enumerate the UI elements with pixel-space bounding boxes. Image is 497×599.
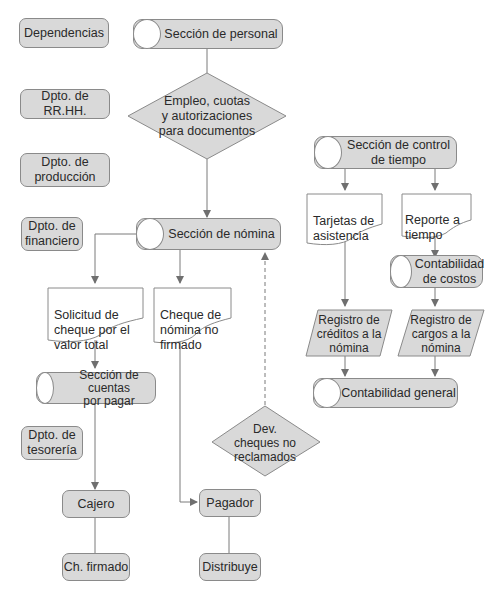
pagador-label: Pagador <box>206 496 253 511</box>
doc-reporte: Reporte a tiempo <box>405 198 460 243</box>
node-contabilidad-costos: Contabilidad de costos <box>390 255 483 288</box>
node-contabilidad-general: Contabilidad general <box>313 378 458 408</box>
dept-tesoreria: Dpto. de tesorería <box>21 426 83 460</box>
node-pagador: Pagador <box>199 489 261 517</box>
node-cajero: Cajero <box>62 490 130 518</box>
doc-cheque-label: Cheque de nómina no firmado <box>160 308 221 352</box>
node-ch-firmado: Ch. firmado <box>62 553 130 581</box>
decision-empleo-label: Empleo, cuotas y autorizaciones para doc… <box>159 94 256 139</box>
seccion-nomina-label: Sección de nómina <box>168 227 274 242</box>
node-distribuye: Distribuye <box>199 553 261 581</box>
cajero-label: Cajero <box>78 497 115 512</box>
registro-creditos-label: Registro de créditos a la nómina <box>317 313 382 355</box>
dept-dependencias-label: Dependencias <box>24 26 104 41</box>
cylinder-cap-icon <box>314 136 342 169</box>
seccion-personal-label: Sección de personal <box>164 27 277 42</box>
dept-financiero: Dpto. de financiero <box>21 217 83 251</box>
decision-dev-label: Dev. cheques no reclamados <box>234 422 296 464</box>
contabilidad-general-label: Contabilidad general <box>341 386 456 401</box>
contabilidad-costos-label: Contabilidad de costos <box>415 257 485 287</box>
seccion-cuentas-label: Sección de cuentas por pagar <box>63 369 155 408</box>
dept-rrhh: Dpto. de RR.HH. <box>20 89 110 119</box>
cylinder-cap-icon <box>313 378 341 408</box>
dept-tesoreria-label: Dpto. de tesorería <box>27 428 76 458</box>
dept-dependencias: Dependencias <box>19 18 109 48</box>
node-seccion-personal: Sección de personal <box>133 19 283 49</box>
decision-dev: Dev. cheques no reclamados <box>222 418 308 468</box>
cylinder-cap-icon <box>136 218 164 250</box>
node-seccion-control: Sección de control de tiempo <box>314 136 457 169</box>
doc-reporte-label: Reporte a tiempo <box>405 213 460 242</box>
registro-cargos: Registro de cargos a la nómina <box>400 311 482 356</box>
seccion-control-label: Sección de control de tiempo <box>347 138 450 168</box>
dept-produccion: Dpto. de producción <box>20 153 110 187</box>
doc-tarjetas: Tarjetas de asistencia <box>313 199 374 244</box>
doc-tarjetas-label: Tarjetas de asistencia <box>313 214 374 243</box>
decision-empleo: Empleo, cuotas y autorizaciones para doc… <box>138 90 276 142</box>
cylinder-cap-icon <box>390 255 412 288</box>
dept-financiero-label: Dpto. de financiero <box>25 219 79 249</box>
registro-cargos-label: Registro de cargos a la nómina <box>410 313 471 355</box>
cylinder-cap-icon <box>133 19 161 49</box>
cylinder-cap-icon <box>36 372 54 404</box>
node-seccion-cuentas: Sección de cuentas por pagar <box>36 372 156 404</box>
doc-solicitud-label: Solicitud de cheque por el valor total <box>54 308 130 352</box>
node-seccion-nomina: Sección de nómina <box>136 218 281 250</box>
doc-cheque: Cheque de nómina no firmado <box>160 293 221 353</box>
distribuye-label: Distribuye <box>202 560 258 575</box>
ch-firmado-label: Ch. firmado <box>64 560 129 575</box>
dept-produccion-label: Dpto. de producción <box>34 155 95 185</box>
registro-creditos: Registro de créditos a la nómina <box>308 311 390 356</box>
doc-solicitud: Solicitud de cheque por el valor total <box>54 293 130 353</box>
dept-rrhh-label: Dpto. de RR.HH. <box>21 89 109 119</box>
